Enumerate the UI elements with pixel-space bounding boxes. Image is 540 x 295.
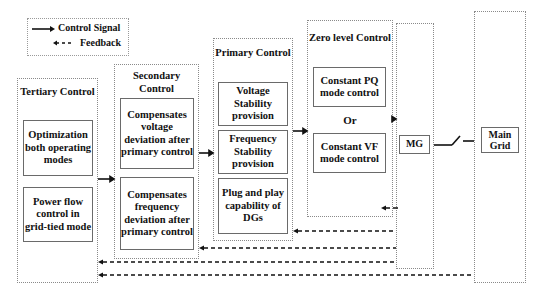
control-arrow-icon — [98, 117, 396, 182]
switch-icon — [434, 136, 474, 145]
feedback-arrow-icon — [103, 208, 474, 275]
connector-lines — [0, 0, 540, 295]
